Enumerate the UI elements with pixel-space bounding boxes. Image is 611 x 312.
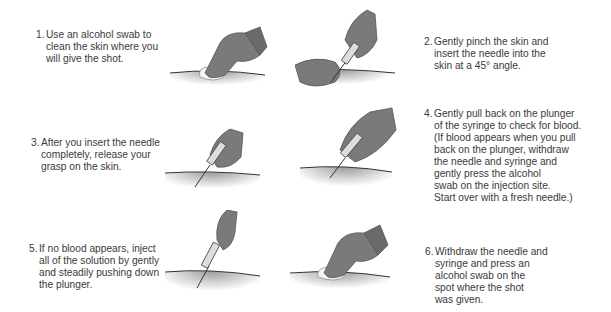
step-5-illustration-plunger-icon xyxy=(165,210,265,305)
step-2-number: 2. xyxy=(424,36,433,48)
step-5-text: 5. If no blood appears, inject all of th… xyxy=(29,243,159,291)
step-4-illustration-syringe-icon xyxy=(300,100,400,200)
step-1-text: 1. Use an alcohol swab to clean the skin… xyxy=(36,29,158,65)
step-4-body: Gently pull back on the plunger of the s… xyxy=(424,108,581,204)
step-5-body: If no blood appears, inject all of the s… xyxy=(29,243,159,291)
step-3-body: After you insert the needle completely, … xyxy=(31,137,160,173)
step-2-text: 2. Gently pinch the skin and insert the … xyxy=(424,36,548,72)
step-2-illustration-needle-icon xyxy=(295,0,405,100)
step-4-text: 4. Gently pull back on the plunger of th… xyxy=(424,108,581,204)
step-6-text: 6. Withdraw the needle and syringe and p… xyxy=(425,246,548,306)
step-3-illustration-needle-icon xyxy=(165,115,265,200)
step-1-number: 1. xyxy=(36,29,45,41)
step-6-body: Withdraw the needle and syringe and pres… xyxy=(425,246,548,306)
step-1-body: Use an alcohol swab to clean the skin wh… xyxy=(36,29,158,65)
step-5-number: 5. xyxy=(29,243,38,255)
step-1-illustration-swab-icon xyxy=(165,15,275,95)
step-3-number: 3. xyxy=(31,137,40,149)
step-3-text: 3. After you insert the needle completel… xyxy=(31,137,160,173)
step-2-body: Gently pinch the skin and insert the nee… xyxy=(424,36,548,72)
step-4-number: 4. xyxy=(424,108,433,120)
step-6-number: 6. xyxy=(425,246,434,258)
step-6-illustration-swab-icon xyxy=(290,215,405,300)
